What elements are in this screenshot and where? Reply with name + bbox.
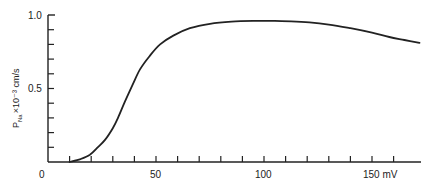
x-tick-label-0: 0: [39, 169, 45, 180]
y-axis-label-rest: ×10⁻³ cm/s: [11, 68, 21, 113]
y-axis-label: PNa×10⁻³ cm/s: [11, 68, 23, 128]
y-ticks: [48, 30, 54, 148]
y-tick-label-05: 0.5: [28, 83, 42, 94]
x-tick-label-100: 100: [255, 169, 272, 180]
y-axis-label-sub: Na: [17, 114, 23, 122]
svg-text:PNa×10⁻³ cm/s: PNa×10⁻³ cm/s: [11, 68, 23, 128]
chart-area: 0 50 100 150 mV 1.0 0.5 PNa×10⁻³ cm/s: [0, 0, 431, 188]
x-tick-label-50: 50: [150, 169, 162, 180]
x-ticks: [70, 156, 394, 162]
x-tick-label-150: 150 mV: [363, 169, 398, 180]
y-tick-label-1: 1.0: [28, 10, 42, 21]
pna-curve: [70, 21, 420, 162]
